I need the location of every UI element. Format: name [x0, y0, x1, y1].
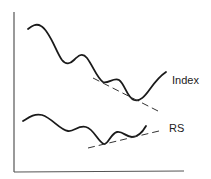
rs-label: RS [169, 122, 184, 134]
rs-curve [23, 115, 146, 145]
index-label: Index [172, 74, 199, 86]
index-curve [28, 25, 166, 101]
x-axis [14, 171, 184, 172]
index-trendline [93, 78, 158, 111]
divergence-diagram: Index RS [0, 0, 211, 179]
